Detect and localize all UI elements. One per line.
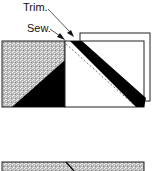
trim-label: Trim. xyxy=(23,1,48,13)
sew-label: Sew. xyxy=(27,22,51,34)
trim-arrow-icon xyxy=(48,9,74,37)
sew-arrow-icon xyxy=(50,29,65,40)
quilt-diagram: Trim. Sew. xyxy=(0,0,153,171)
gray-square xyxy=(2,41,65,107)
bottom-gray-strip xyxy=(2,162,144,171)
